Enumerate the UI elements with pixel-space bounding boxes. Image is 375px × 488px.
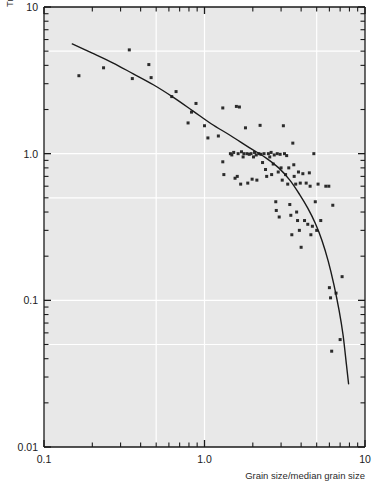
data-point <box>330 350 333 353</box>
data-point <box>267 152 270 155</box>
data-point <box>252 155 255 158</box>
data-point <box>237 152 240 155</box>
data-point <box>274 200 277 203</box>
data-point <box>150 76 153 79</box>
data-point <box>255 179 258 182</box>
data-point <box>324 185 327 188</box>
data-point <box>305 182 308 185</box>
data-point <box>282 124 285 127</box>
data-point <box>281 179 284 182</box>
data-point <box>311 225 314 228</box>
data-point <box>275 209 278 212</box>
data-point <box>309 233 312 236</box>
data-point <box>341 275 344 278</box>
data-point <box>221 160 224 163</box>
data-point <box>263 152 266 155</box>
chart-canvas: 0.11.010 101.00.10.01 Grain size/median … <box>0 0 375 488</box>
x-tick-label: 10 <box>359 453 371 465</box>
y-tick-label: 1.0 <box>23 148 38 160</box>
data-point <box>268 155 271 158</box>
data-point <box>264 168 267 171</box>
data-point <box>291 142 294 145</box>
data-point <box>339 338 342 341</box>
y-tick-label: 0.1 <box>23 294 38 306</box>
data-point <box>294 183 297 186</box>
data-point <box>242 155 245 158</box>
data-point <box>297 170 300 173</box>
scatter-plot-figure: 0.11.010 101.00.10.01 Grain size/median … <box>0 0 375 488</box>
data-point <box>273 153 276 156</box>
data-point <box>77 74 80 77</box>
data-point <box>278 215 281 218</box>
x-tick-label: 0.1 <box>37 453 52 465</box>
data-point <box>286 183 289 186</box>
data-point <box>292 163 295 166</box>
data-point <box>306 223 309 226</box>
data-point <box>288 203 291 206</box>
data-point <box>246 182 249 185</box>
data-point <box>331 204 334 207</box>
data-point <box>236 175 239 178</box>
data-point <box>102 66 105 69</box>
data-point <box>187 121 190 124</box>
data-point <box>312 152 315 155</box>
data-point <box>147 63 150 66</box>
data-point <box>289 214 292 217</box>
data-point <box>239 183 242 186</box>
data-point <box>276 152 279 155</box>
data-point <box>265 175 268 178</box>
data-point <box>259 124 262 127</box>
data-point <box>308 171 311 174</box>
data-point <box>261 161 264 164</box>
data-point <box>235 105 238 108</box>
data-point <box>270 173 273 176</box>
data-point <box>206 136 209 139</box>
data-point <box>277 170 280 173</box>
data-point <box>287 166 290 169</box>
data-point <box>299 182 302 185</box>
y-axis-title: Travel distance/travel distance of media… <box>4 0 15 7</box>
data-point <box>232 151 235 154</box>
data-point <box>279 153 282 156</box>
data-point <box>293 175 296 178</box>
data-point <box>175 90 178 93</box>
data-point <box>242 152 245 155</box>
data-point <box>222 173 225 176</box>
data-point <box>244 126 247 129</box>
data-point <box>255 153 258 156</box>
data-point <box>217 134 220 137</box>
data-point <box>327 185 330 188</box>
data-point <box>300 246 303 249</box>
data-point <box>131 77 134 80</box>
data-point <box>309 185 312 188</box>
y-tick-label: 10 <box>26 1 38 13</box>
data-point <box>290 233 293 236</box>
data-point <box>251 178 254 181</box>
data-point <box>314 200 317 203</box>
data-point <box>296 219 299 222</box>
data-point <box>128 48 131 51</box>
data-point <box>319 219 322 222</box>
x-tick-label: 1.0 <box>197 453 212 465</box>
data-point <box>250 152 253 155</box>
data-point <box>270 151 273 154</box>
y-tick-label: 0.01 <box>18 441 39 453</box>
data-point <box>329 296 332 299</box>
data-point <box>303 219 306 222</box>
x-axis-title: Grain size/median grain size <box>245 470 365 481</box>
data-point <box>238 106 241 109</box>
data-point <box>298 229 301 232</box>
data-point <box>221 106 224 109</box>
data-point <box>317 183 320 186</box>
data-point <box>203 124 206 127</box>
data-point <box>285 154 288 157</box>
data-point <box>194 102 197 105</box>
data-point <box>301 172 304 175</box>
data-point <box>328 286 331 289</box>
data-point <box>295 211 298 214</box>
